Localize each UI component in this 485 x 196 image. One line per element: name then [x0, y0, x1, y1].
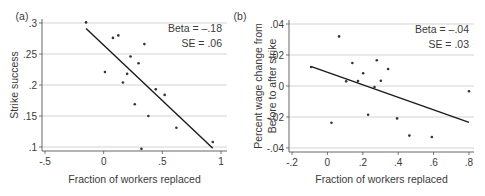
y-tick-label: .04 [270, 19, 284, 30]
data-point [375, 59, 378, 62]
data-point [380, 79, 383, 82]
data-point [387, 68, 390, 71]
data-point [85, 21, 88, 24]
panel-a-strike-success: .1.15.2.25.3-.50.51(a)Beta = –.18SE = .0… [8, 10, 227, 185]
x-tick-label: .6 [429, 157, 438, 168]
data-point [345, 80, 348, 83]
data-point [373, 86, 376, 89]
data-point [117, 34, 120, 37]
data-point [140, 148, 143, 151]
data-point [133, 103, 136, 106]
data-point [163, 94, 166, 97]
x-tick-label: .5 [158, 156, 167, 167]
data-point [137, 62, 140, 65]
y-tick-label: .1 [29, 142, 38, 153]
data-point [357, 80, 360, 83]
panel-label: (b) [234, 10, 247, 22]
x-tick-label: .8 [465, 157, 474, 168]
figure-svg: .1.15.2.25.3-.50.51(a)Beta = –.18SE = .0… [0, 0, 485, 196]
x-tick-label: 0 [325, 157, 331, 168]
y-axis-title: Strike success [8, 51, 20, 119]
data-point [143, 43, 146, 46]
data-point [129, 55, 132, 58]
data-point [408, 134, 411, 137]
y-tick-label: -.04 [267, 143, 285, 154]
x-tick-label: -.5 [39, 156, 51, 167]
data-point [351, 62, 354, 65]
x-tick-label: .4 [394, 157, 403, 168]
data-point [126, 73, 129, 76]
data-point [367, 113, 370, 116]
data-point [310, 66, 313, 69]
data-point [330, 121, 333, 124]
se-annotation: SE = .06 [181, 37, 222, 49]
x-axis-title: Fraction of workers replaced [68, 173, 201, 185]
se-annotation: SE = .03 [428, 38, 469, 50]
data-point [104, 71, 107, 74]
data-point [175, 126, 178, 129]
beta-annotation: Beta = –.04 [415, 23, 469, 35]
data-point [211, 141, 214, 144]
data-point [338, 35, 341, 38]
panel-label: (a) [16, 10, 29, 22]
data-point [396, 117, 399, 120]
y-axis-title: Before to after strike [266, 39, 278, 134]
data-point [154, 88, 157, 91]
beta-annotation: Beta = –.18 [168, 22, 222, 34]
x-tick-label: -.2 [286, 157, 298, 168]
data-point [147, 115, 150, 118]
y-axis-title: Percent wage change from [252, 23, 264, 149]
panel-b-wage-change: -.04-.020.02.04-.20.2.4.6.8(b)Beta = –.0… [234, 10, 474, 185]
data-point [122, 81, 125, 84]
y-tick-label: .2 [29, 80, 38, 91]
x-tick-label: 1 [218, 156, 224, 167]
y-tick-label: .3 [29, 18, 38, 29]
data-point [468, 90, 471, 93]
data-point [431, 136, 434, 139]
data-point [362, 72, 365, 75]
data-point [112, 37, 115, 40]
y-tick-label: .15 [23, 111, 37, 122]
figure: .1.15.2.25.3-.50.51(a)Beta = –.18SE = .0… [0, 0, 485, 196]
x-axis-title: Fraction of workers replaced [315, 173, 448, 185]
x-tick-label: 0 [101, 156, 107, 167]
regression-line [311, 67, 469, 123]
y-tick-label: 0 [278, 81, 284, 92]
y-tick-label: .25 [23, 49, 37, 60]
x-tick-label: .2 [359, 157, 368, 168]
